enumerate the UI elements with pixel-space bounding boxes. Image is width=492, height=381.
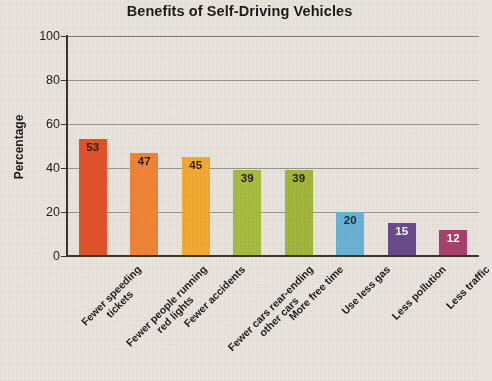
bar: 47 <box>130 153 158 256</box>
plot-area: 5347453939201512 <box>67 36 479 256</box>
bar: 20 <box>336 212 364 256</box>
y-axis-line <box>66 35 68 257</box>
bar-value-label: 47 <box>130 156 158 168</box>
y-axis-tick-labels: 100 80 60 40 20 0 <box>0 0 60 381</box>
y-tick-mark-20 <box>61 212 66 213</box>
bar-value-label: 45 <box>182 160 210 172</box>
chart-title: Benefits of Self-Driving Vehicles <box>0 3 479 19</box>
y-tick-label-60: 60 <box>14 117 60 131</box>
bar: 15 <box>388 223 416 256</box>
y-tick-label-0: 0 <box>14 249 60 263</box>
bar: 12 <box>439 230 467 256</box>
bar-value-label: 15 <box>388 226 416 238</box>
bar: 45 <box>182 157 210 256</box>
gridline-20 <box>67 212 479 213</box>
gridline-40 <box>67 168 479 169</box>
y-tick-label-40: 40 <box>14 161 60 175</box>
y-tick-mark-60 <box>61 124 66 125</box>
bar-value-label: 53 <box>79 142 107 154</box>
bar-value-label: 39 <box>285 173 313 185</box>
y-tick-mark-100 <box>61 36 66 37</box>
gridline-80 <box>67 80 479 81</box>
x-axis-category-label: Use less gas <box>339 263 393 317</box>
bar: 53 <box>79 139 107 256</box>
bar: 39 <box>233 170 261 256</box>
x-axis-line <box>66 255 479 257</box>
x-axis-category-label: Less traffic <box>444 263 492 311</box>
y-tick-label-100: 100 <box>14 29 60 43</box>
y-tick-mark-0 <box>61 256 66 257</box>
bar-value-label: 12 <box>439 233 467 245</box>
y-tick-mark-80 <box>61 80 66 81</box>
bar-value-label: 39 <box>233 173 261 185</box>
bar: 39 <box>285 170 313 256</box>
gridline-100 <box>67 36 479 37</box>
x-axis-category-label: Less pollution <box>389 263 448 322</box>
bar-value-label: 20 <box>336 215 364 227</box>
y-tick-label-80: 80 <box>14 73 60 87</box>
y-tick-label-20: 20 <box>14 205 60 219</box>
y-tick-mark-40 <box>61 168 66 169</box>
gridline-60 <box>67 124 479 125</box>
